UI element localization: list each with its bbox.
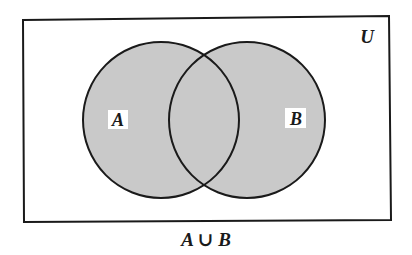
set-a-label: A [111,110,124,130]
diagram-caption: A ∪ B [180,229,231,250]
set-b-label: B [289,109,302,129]
venn-diagram: A B U A ∪ B [0,0,412,255]
universe-label: U [360,26,375,47]
venn-diagram-svg: A B U A ∪ B [0,0,412,255]
